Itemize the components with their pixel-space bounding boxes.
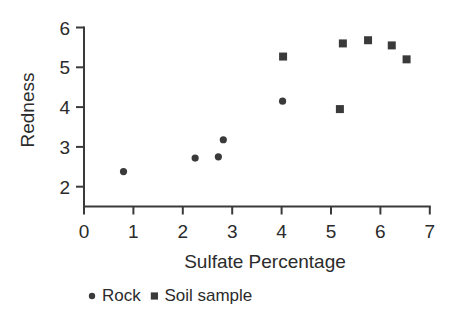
y-axis-title: Redness: [17, 73, 38, 148]
data-point-soil-sample: [279, 53, 287, 61]
chart-legend: RockSoil sample: [89, 286, 252, 305]
x-axis-title: Sulfate Percentage: [184, 251, 346, 272]
series-rock-markers: [120, 98, 286, 176]
data-point-rock: [279, 98, 286, 105]
data-point-soil-sample: [388, 41, 396, 49]
data-point-rock: [192, 154, 199, 161]
y-axis-tick-label: 2: [59, 177, 70, 198]
data-point-soil-sample: [339, 39, 347, 47]
x-axis-tick-label: 7: [425, 221, 436, 242]
data-point-rock: [215, 153, 222, 160]
y-axis-tick-label: 5: [59, 57, 70, 78]
legend-label: Soil sample: [164, 286, 252, 305]
y-axis-tick-label: 4: [59, 97, 70, 118]
y-axis-tick-label: 6: [59, 18, 70, 39]
series-soil-sample-markers: [279, 36, 411, 113]
data-point-rock: [220, 136, 227, 143]
legend-label: Rock: [102, 286, 141, 305]
x-axis-tick-label: 4: [276, 221, 287, 242]
legend-marker-soil-sample: [151, 292, 158, 299]
scatter-chart-figure: 23456 01234567 Sulfate Percentage Rednes…: [0, 0, 470, 318]
data-point-rock: [120, 168, 127, 175]
x-axis-tick-label: 3: [227, 221, 238, 242]
data-point-soil-sample: [403, 55, 411, 63]
x-axis-tick-label: 6: [375, 221, 386, 242]
data-point-soil-sample: [364, 36, 372, 44]
legend-marker-rock: [89, 293, 95, 299]
scatter-plot-canvas: 23456 01234567 Sulfate Percentage Rednes…: [0, 0, 470, 318]
axes-group: [84, 28, 430, 207]
y-axis-tick-labels: 23456: [59, 18, 70, 198]
data-point-soil-sample: [336, 105, 344, 113]
x-axis-ticks: [84, 207, 430, 215]
y-axis-ticks: [76, 28, 84, 187]
x-axis-tick-label: 5: [326, 221, 337, 242]
x-axis-tick-label: 0: [79, 221, 90, 242]
y-axis-tick-label: 3: [59, 137, 70, 158]
x-axis-tick-labels: 01234567: [79, 221, 435, 242]
x-axis-tick-label: 2: [178, 221, 189, 242]
x-axis-tick-label: 1: [128, 221, 139, 242]
